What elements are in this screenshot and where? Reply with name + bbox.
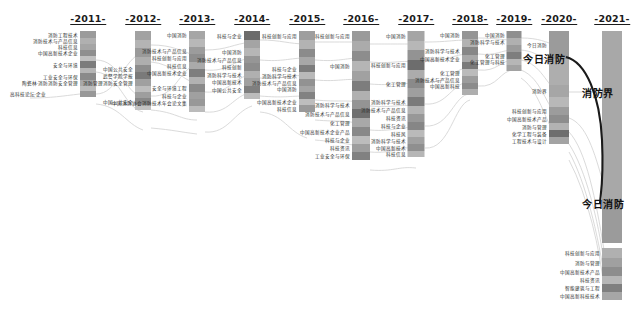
annotation-3: 今日消防 xyxy=(582,196,624,211)
annotation-2: 消防界 xyxy=(582,85,614,100)
annotation-layer: 今日消防消防界今日消防 xyxy=(0,0,642,330)
alluvial-chart: -2011--2012--2013--2014--2015--2016--201… xyxy=(0,0,642,330)
annotation-1: 今日消防 xyxy=(523,51,565,66)
